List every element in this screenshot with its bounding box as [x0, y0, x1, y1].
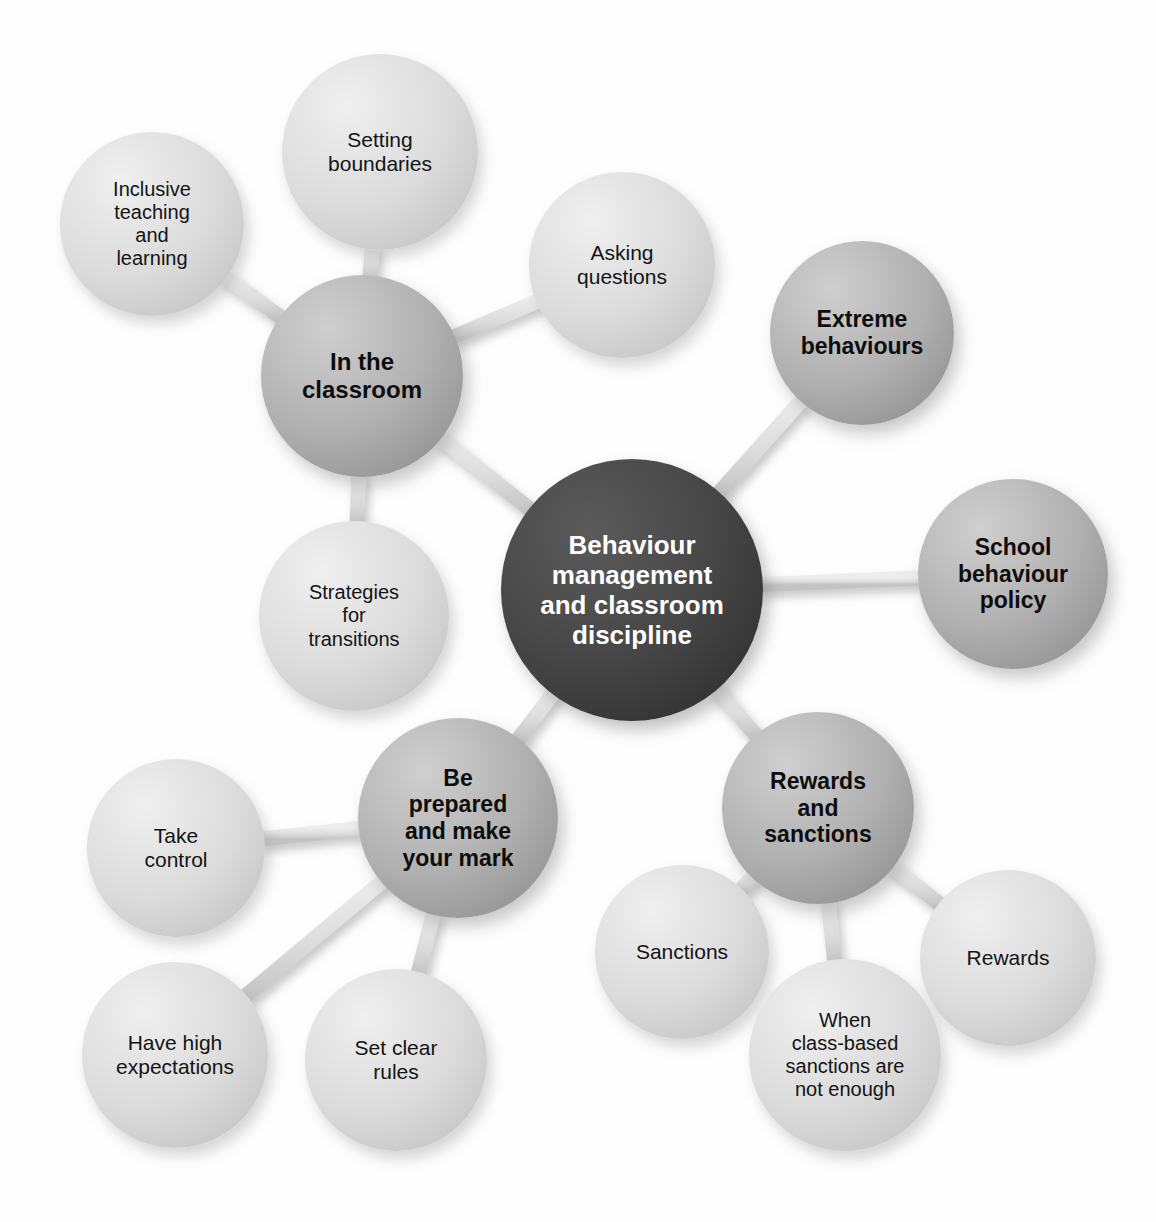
connector-in-the-classroom-to-inclusive-teaching-and-learning [222, 274, 285, 320]
node-label: Setting boundaries [322, 128, 438, 177]
node-setting-boundaries[interactable]: Setting boundaries [282, 54, 478, 250]
node-when-class-based-sanctions-are-not-enough[interactable]: When class-based sanctions are not enoug… [749, 959, 941, 1151]
node-label: Rewards and sanctions [758, 768, 877, 848]
node-label: Strategies for transitions [302, 581, 405, 651]
node-label: Have high expectations [110, 1031, 240, 1080]
connector-rewards-and-sanctions-to-when-class-based-sanctions-are-not-enough [828, 897, 835, 965]
connector-hub-to-school-behaviour-policy [757, 578, 924, 585]
node-label: Take control [138, 824, 213, 873]
node-inclusive-teaching-and-learning[interactable]: Inclusive teaching and learning [60, 132, 244, 316]
node-asking-questions[interactable]: Asking questions [529, 172, 715, 358]
node-extreme-behaviours[interactable]: Extreme behaviours [770, 241, 954, 425]
node-have-high-expectations[interactable]: Have high expectations [82, 962, 268, 1148]
connector-hub-to-extreme-behaviours [715, 397, 804, 497]
node-label: Inclusive teaching and learning [107, 178, 197, 271]
node-label: Extreme behaviours [795, 306, 930, 359]
connector-rewards-and-sanctions-to-rewards [889, 864, 944, 907]
node-label: When class-based sanctions are not enoug… [780, 1009, 911, 1102]
node-strategies-for-transitions[interactable]: Strategies for transitions [259, 521, 449, 711]
node-central-hub[interactable]: Behaviour management and classroom disci… [501, 459, 763, 721]
node-label: In the classroom [296, 348, 428, 404]
node-label: Be prepared and make your mark [396, 765, 519, 872]
connector-in-the-classroom-to-strategies-for-transitions [357, 471, 359, 527]
node-label: Sanctions [630, 940, 734, 964]
node-label: Rewards [961, 946, 1056, 970]
node-label: Set clear rules [349, 1036, 444, 1085]
node-label: Behaviour management and classroom disci… [534, 530, 730, 651]
connector-be-prepared-and-make-your-mark-to-take-control [259, 828, 365, 839]
node-label: Asking questions [571, 241, 673, 290]
node-rewards-and-sanctions[interactable]: Rewards and sanctions [722, 712, 914, 904]
connector-in-the-classroom-to-asking-questions [449, 299, 542, 339]
node-school-behaviour-policy[interactable]: School behaviour policy [918, 479, 1108, 669]
node-rewards[interactable]: Rewards [920, 870, 1096, 1046]
node-take-control[interactable]: Take control [87, 759, 265, 937]
node-sanctions[interactable]: Sanctions [595, 865, 769, 1039]
connector-hub-to-rewards-and-sanctions [713, 685, 759, 739]
node-label: School behaviour policy [952, 534, 1074, 614]
connector-hub-to-be-prepared-and-make-your-mark [515, 689, 556, 743]
node-in-the-classroom[interactable]: In the classroom [261, 275, 463, 477]
connector-hub-to-in-the-classroom [436, 435, 534, 512]
connector-be-prepared-and-make-your-mark-to-set-clear-rules [417, 909, 435, 978]
node-set-clear-rules[interactable]: Set clear rules [305, 969, 487, 1151]
mind-map-canvas: Setting boundariesInclusive teaching and… [0, 0, 1156, 1222]
node-be-prepared-and-make-your-mark[interactable]: Be prepared and make your mark [358, 718, 558, 918]
